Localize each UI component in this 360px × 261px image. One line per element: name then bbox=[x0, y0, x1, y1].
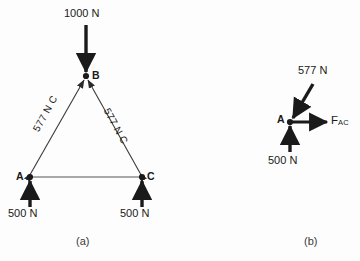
reaction-label-right-500n: 500 N bbox=[120, 208, 149, 219]
reaction-label-left-500n: 500 N bbox=[8, 208, 37, 219]
fbd-label-577n: 577 N bbox=[298, 65, 327, 76]
fbd-label-500n: 500 N bbox=[268, 155, 297, 166]
joint-label-c: C bbox=[147, 171, 155, 182]
joint-label-b: B bbox=[92, 70, 100, 81]
truss-figure: 1000 N B A C 577 N C 577 N C 500 N 500 N… bbox=[0, 0, 360, 261]
fbd-joint-label-a: A bbox=[277, 114, 285, 125]
joint-label-a: A bbox=[16, 171, 24, 182]
fbd-force-arrow-577n bbox=[293, 84, 313, 118]
fbd-label-fac: FAC bbox=[331, 115, 349, 127]
caption-panel-a: (a) bbox=[76, 236, 89, 247]
fbd-joint-a-node bbox=[287, 119, 293, 125]
joint-b-node bbox=[83, 73, 89, 79]
fbd-label-fac-subscript: AC bbox=[338, 118, 349, 127]
fbd-label-fac-main: F bbox=[331, 114, 338, 126]
caption-panel-b: (b) bbox=[304, 236, 317, 247]
joint-c-node bbox=[139, 174, 145, 180]
load-label-1000n: 1000 N bbox=[64, 8, 99, 19]
figure-vector-layer bbox=[0, 0, 360, 261]
joint-a-node bbox=[27, 174, 33, 180]
